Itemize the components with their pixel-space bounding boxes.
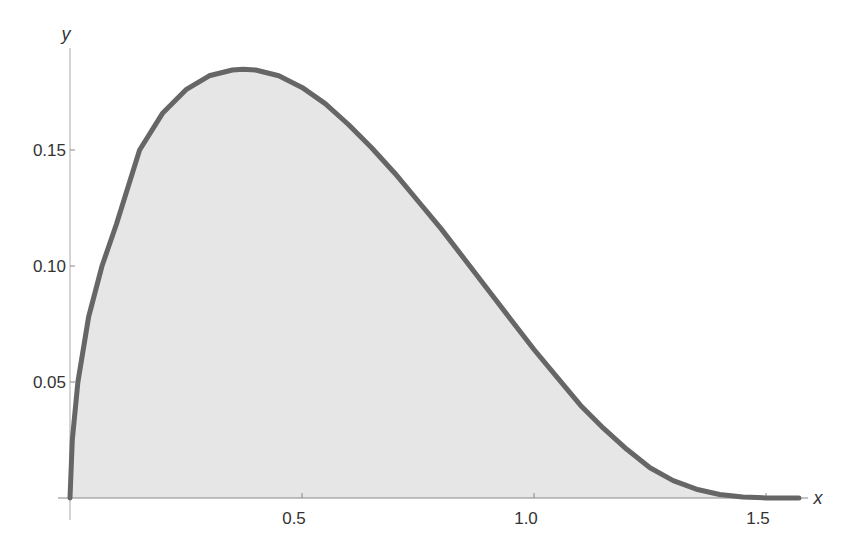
x-tick-label: 0.5: [282, 509, 306, 528]
x-tick-label: 1.5: [746, 509, 770, 528]
y-tick-label: 0.15: [33, 141, 66, 160]
x-axis-label: x: [813, 488, 824, 508]
y-tick-label: 0.05: [33, 373, 66, 392]
y-tick-label: 0.10: [33, 257, 66, 276]
y-ticks: 0.050.100.15: [33, 141, 75, 392]
y-axis-label: y: [60, 24, 72, 44]
area-fill: [70, 69, 799, 498]
x-tick-label: 1.0: [514, 509, 538, 528]
chart-plot: 0.050.100.15 0.51.01.5 y x: [0, 0, 849, 550]
